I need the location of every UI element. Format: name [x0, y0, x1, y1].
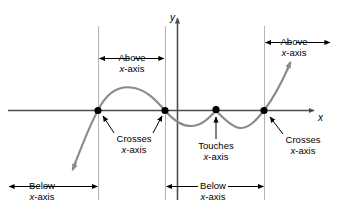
x-axis-label: x	[318, 112, 323, 123]
label-touches: Touches x-axis	[195, 140, 237, 162]
label-above-left: Above x-axis	[112, 52, 152, 74]
polynomial-curve	[73, 62, 291, 170]
leader-crosses-3	[270, 117, 283, 134]
label-crosses-left-sub: x-axis	[113, 144, 155, 155]
axes	[8, 18, 314, 200]
leader-crosses-2	[153, 116, 162, 133]
label-below-right-sub: x-axis	[193, 191, 233, 202]
label-above-right: Above x-axis	[274, 36, 314, 58]
label-crosses-left: Crosses x-axis	[113, 133, 155, 155]
label-above-right-title: Above	[274, 36, 314, 47]
label-touches-sub: x-axis	[195, 151, 237, 162]
label-below-left-sub: x-axis	[22, 191, 62, 202]
root-point-crosses-2	[161, 107, 168, 114]
label-below-left-title: Below	[22, 180, 62, 191]
root-point-touches	[212, 106, 219, 113]
label-below-left: Below x-axis	[22, 180, 62, 202]
label-crosses-right-sub: x-axis	[282, 145, 324, 156]
label-touches-title: Touches	[195, 140, 237, 151]
label-above-right-sub: x-axis	[274, 47, 314, 58]
y-axis-label: y	[170, 12, 175, 23]
label-above-left-title: Above	[112, 52, 152, 63]
label-crosses-right-title: Crosses	[282, 134, 324, 145]
leader-crosses-1	[103, 116, 114, 133]
label-crosses-right: Crosses x-axis	[282, 134, 324, 156]
root-point-crosses-1	[94, 107, 101, 114]
root-point-crosses-3	[260, 107, 267, 114]
label-below-right: Below x-axis	[193, 180, 233, 202]
label-crosses-left-title: Crosses	[113, 133, 155, 144]
label-below-right-title: Below	[193, 180, 233, 191]
label-above-left-sub: x-axis	[112, 63, 152, 74]
